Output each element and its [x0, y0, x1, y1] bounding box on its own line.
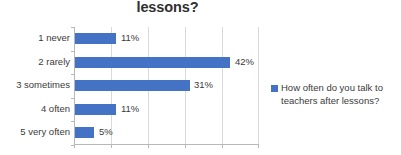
category-tick-4: [71, 121, 74, 122]
value-axis-line: [74, 144, 259, 145]
category-label-2: 2 rarely: [0, 56, 70, 68]
category-axis-labels: 1 never 2 rarely 3 sometimes 4 often 5 v…: [0, 27, 70, 145]
plot-area: 11% 42% 31% 11% 5%: [74, 27, 259, 145]
chart-legend: How often do you talk to teachers after …: [271, 82, 399, 107]
category-tick-2: [71, 74, 74, 75]
bar-value-label-2: 42%: [235, 55, 254, 69]
value-tick-50: [258, 145, 259, 148]
gridline-40: [222, 27, 223, 145]
bar-1-never[interactable]: [75, 33, 116, 44]
bar-value-label-1: 11%: [121, 31, 139, 45]
bar-3-sometimes[interactable]: [75, 80, 190, 91]
legend-entry-label[interactable]: How often do you talk to teachers after …: [281, 82, 399, 107]
bar-5-very-often[interactable]: [75, 127, 94, 138]
bar-value-label-4: 11%: [121, 102, 139, 116]
category-label-1: 1 never: [0, 32, 70, 44]
category-tick-0: [71, 27, 74, 28]
value-tick-40: [222, 145, 223, 148]
category-tick-1: [71, 51, 74, 52]
bar-2-rarely[interactable]: [75, 57, 230, 68]
bar-4-often[interactable]: [75, 104, 116, 115]
chart-title: lessons?: [75, 0, 260, 15]
bar-value-label-5: 5%: [99, 125, 113, 139]
value-tick-20: [148, 145, 149, 148]
value-tick-30: [185, 145, 186, 148]
value-tick-0: [74, 145, 75, 148]
value-tick-10: [111, 145, 112, 148]
legend-swatch-icon: [271, 85, 278, 92]
category-label-3: 3 sometimes: [0, 79, 70, 91]
gridline-50: [258, 27, 259, 145]
bar-chart: lessons? 1 never 2 rarely 3 sometimes 4 …: [0, 0, 401, 155]
bar-value-label-3: 31%: [194, 78, 213, 92]
category-label-4: 4 often: [0, 103, 70, 115]
category-tick-3: [71, 98, 74, 99]
category-label-5: 5 very often: [0, 126, 70, 138]
